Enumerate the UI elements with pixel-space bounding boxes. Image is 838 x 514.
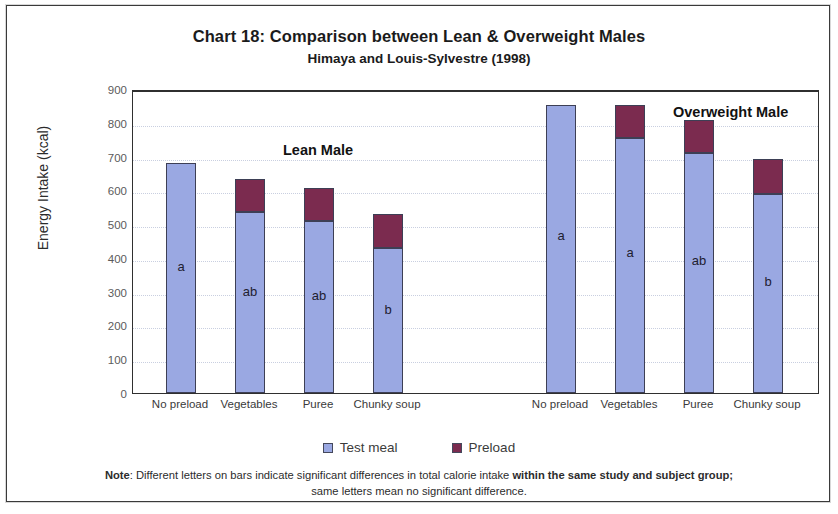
legend-item[interactable]: Test meal <box>323 440 398 455</box>
y-axis-tick-label: 300 <box>93 287 127 299</box>
x-axis-label: No preload <box>532 398 588 410</box>
note-line2: same letters mean no significant differe… <box>7 483 831 499</box>
bar-significance-letter: a <box>166 259 196 274</box>
x-axis-label: Vegetables <box>601 398 658 410</box>
bar-segment-test-meal[interactable] <box>166 163 196 393</box>
group-annotation: Lean Male <box>283 142 353 158</box>
x-axis-label: No preload <box>152 398 208 410</box>
y-axis-tick-label: 200 <box>93 320 127 332</box>
x-axis-label: Puree <box>683 398 714 410</box>
note-line1-text: : Different letters on bars indicate sig… <box>130 469 513 481</box>
bar-segment-test-meal[interactable] <box>753 194 783 393</box>
y-axis-tick-label: 800 <box>93 118 127 130</box>
gridline <box>133 160 818 161</box>
x-axis-label: Chunky soup <box>353 398 420 410</box>
bar-segment-test-meal[interactable] <box>304 221 334 393</box>
x-axis-label: Puree <box>303 398 334 410</box>
chart-frame: Chart 18: Comparison between Lean & Over… <box>6 5 830 502</box>
bar-significance-letter: a <box>546 228 576 243</box>
chart-subtitle: Himaya and Louis-Sylvestre (1998) <box>7 51 831 66</box>
y-axis-tick-label: 700 <box>93 152 127 164</box>
y-axis-title: Energy Intake (kcal) <box>35 68 51 308</box>
bar[interactable]: a <box>615 105 645 393</box>
y-axis-tick-label: 900 <box>93 84 127 96</box>
bar-segment-test-meal[interactable] <box>235 212 265 393</box>
bar-segment-preload[interactable] <box>753 159 783 193</box>
bar-significance-letter: ab <box>304 288 334 303</box>
bar[interactable]: a <box>546 105 576 393</box>
x-axis-label: Chunky soup <box>733 398 800 410</box>
bar-significance-letter: ab <box>684 253 714 268</box>
gridline <box>133 126 818 127</box>
y-axis-tick-label: 100 <box>93 354 127 366</box>
plot-area: aababbaaabbLean MaleOverweight Male <box>132 90 819 394</box>
y-axis-tick-label: 600 <box>93 185 127 197</box>
x-axis-label: Vegetables <box>221 398 278 410</box>
bar-segment-preload[interactable] <box>304 188 334 221</box>
legend-item[interactable]: Preload <box>452 440 516 455</box>
legend-label: Test meal <box>340 440 398 455</box>
bar[interactable]: b <box>753 159 783 393</box>
bar[interactable]: ab <box>235 179 265 393</box>
note-line1-emphasis: within the same study and subject group; <box>512 469 733 481</box>
page-title: Chart 18: Comparison between Lean & Over… <box>7 27 831 46</box>
bar[interactable]: a <box>166 163 196 393</box>
bar-segment-test-meal[interactable] <box>546 105 576 393</box>
bar-segment-test-meal[interactable] <box>684 153 714 393</box>
group-annotation: Overweight Male <box>673 104 788 120</box>
chart-note: Note: Different letters on bars indicate… <box>7 467 831 499</box>
bar-segment-test-meal[interactable] <box>373 248 403 393</box>
bar-segment-preload[interactable] <box>615 105 645 138</box>
bar-significance-letter: ab <box>235 284 265 299</box>
chart-legend: Test mealPreload <box>7 440 831 455</box>
bar-significance-letter: b <box>753 274 783 289</box>
bar[interactable]: ab <box>684 120 714 393</box>
bar[interactable]: ab <box>304 188 334 393</box>
y-axis-tick-label: 400 <box>93 253 127 265</box>
bar-segment-test-meal[interactable] <box>615 138 645 393</box>
bar-significance-letter: a <box>615 245 645 260</box>
bar[interactable]: b <box>373 214 403 393</box>
note-prefix: Note <box>105 469 130 481</box>
y-axis-tick-label: 500 <box>93 219 127 231</box>
bar-segment-preload[interactable] <box>684 120 714 153</box>
x-axis-labels: No preloadVegetablesPureeChunky soupNo p… <box>132 398 819 418</box>
bar-segment-preload[interactable] <box>373 214 403 248</box>
bar-segment-preload[interactable] <box>235 179 265 213</box>
legend-swatch-icon <box>323 443 333 453</box>
legend-label: Preload <box>469 440 516 455</box>
bar-significance-letter: b <box>373 302 403 317</box>
y-axis-ticks: 0100200300400500600700800900 <box>89 90 127 394</box>
legend-swatch-icon <box>452 443 462 453</box>
y-axis-tick-label: 0 <box>93 388 127 400</box>
